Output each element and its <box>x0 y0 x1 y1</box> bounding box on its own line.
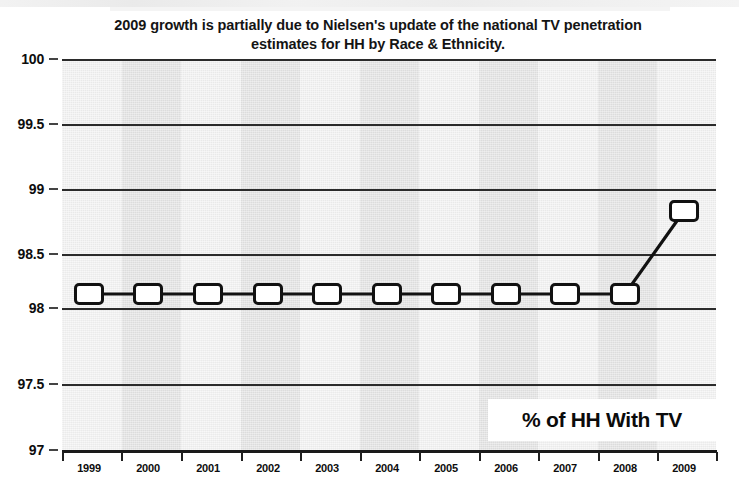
x-axis-label-2009: 2009 <box>654 462 714 474</box>
scan-artifact-band-secondary <box>110 7 670 11</box>
x-axis-label-2007: 2007 <box>535 462 595 474</box>
data-point-2008 <box>610 283 640 305</box>
data-point-2005 <box>431 283 461 305</box>
x-axis-label-2002: 2002 <box>238 462 298 474</box>
gridline-98-5 <box>62 254 716 256</box>
data-point-2006 <box>491 283 521 305</box>
series-annotation: % of HH With TV <box>488 399 716 441</box>
data-point-2001 <box>193 283 223 305</box>
chart-title-line-1: 2009 growth is partially due to Nielsen'… <box>114 17 641 33</box>
data-point-2009 <box>669 200 699 222</box>
y-axis-label-97-5: 97.5 <box>0 376 44 392</box>
x-axis-label-2008: 2008 <box>595 462 655 474</box>
y-axis-label-98: 98 <box>0 300 44 316</box>
gridline-99 <box>62 189 716 191</box>
data-point-2004 <box>372 283 402 305</box>
x-tick <box>121 452 123 461</box>
y-axis-label-99-5: 99.5 <box>0 116 44 132</box>
y-tick-100 <box>49 58 58 60</box>
x-tick <box>419 452 421 461</box>
y-tick-97 <box>49 449 58 451</box>
plot-area <box>62 59 716 450</box>
x-tick <box>657 452 659 461</box>
gridline-98 <box>62 308 716 310</box>
x-axis-label-2000: 2000 <box>118 462 178 474</box>
x-axis-label-2006: 2006 <box>476 462 536 474</box>
x-axis-label-1999: 1999 <box>59 462 119 474</box>
y-tick-99-5 <box>49 123 58 125</box>
x-tick <box>360 452 362 461</box>
chart-title-line-2: estimates for HH by Race & Ethnicity. <box>78 35 678 54</box>
x-tick <box>598 452 600 461</box>
data-point-1999 <box>74 283 104 305</box>
data-point-2000 <box>133 283 163 305</box>
y-tick-98-5 <box>49 253 58 255</box>
y-axis-label-97: 97 <box>0 442 44 458</box>
scan-artifact-band <box>0 0 739 7</box>
data-point-2002 <box>253 283 283 305</box>
gridline-97-5 <box>62 384 716 386</box>
x-axis-label-2004: 2004 <box>357 462 417 474</box>
y-tick-99 <box>49 188 58 190</box>
chart-container: 2009 growth is partially due to Nielsen'… <box>0 0 739 488</box>
x-tick <box>716 452 718 461</box>
x-tick <box>241 452 243 461</box>
x-tick <box>538 452 540 461</box>
y-axis-label-99: 99 <box>0 181 44 197</box>
y-axis-label-98-5: 98.5 <box>0 246 44 262</box>
data-point-2007 <box>550 283 580 305</box>
gridline-99-5 <box>62 124 716 126</box>
data-point-2003 <box>312 283 342 305</box>
x-axis-line <box>62 450 717 453</box>
x-axis-label-2001: 2001 <box>178 462 238 474</box>
x-axis-label-2003: 2003 <box>297 462 357 474</box>
x-axis-label-2005: 2005 <box>416 462 476 474</box>
series-annotation-label: % of HH With TV <box>522 408 682 432</box>
y-axis-label-100: 100 <box>0 51 44 67</box>
x-tick <box>300 452 302 461</box>
gridline-100 <box>62 59 716 61</box>
x-tick <box>479 452 481 461</box>
y-tick-97-5 <box>49 383 58 385</box>
y-tick-98 <box>49 307 58 309</box>
chart-title: 2009 growth is partially due to Nielsen'… <box>78 16 678 54</box>
x-tick <box>62 452 64 461</box>
x-tick <box>181 452 183 461</box>
